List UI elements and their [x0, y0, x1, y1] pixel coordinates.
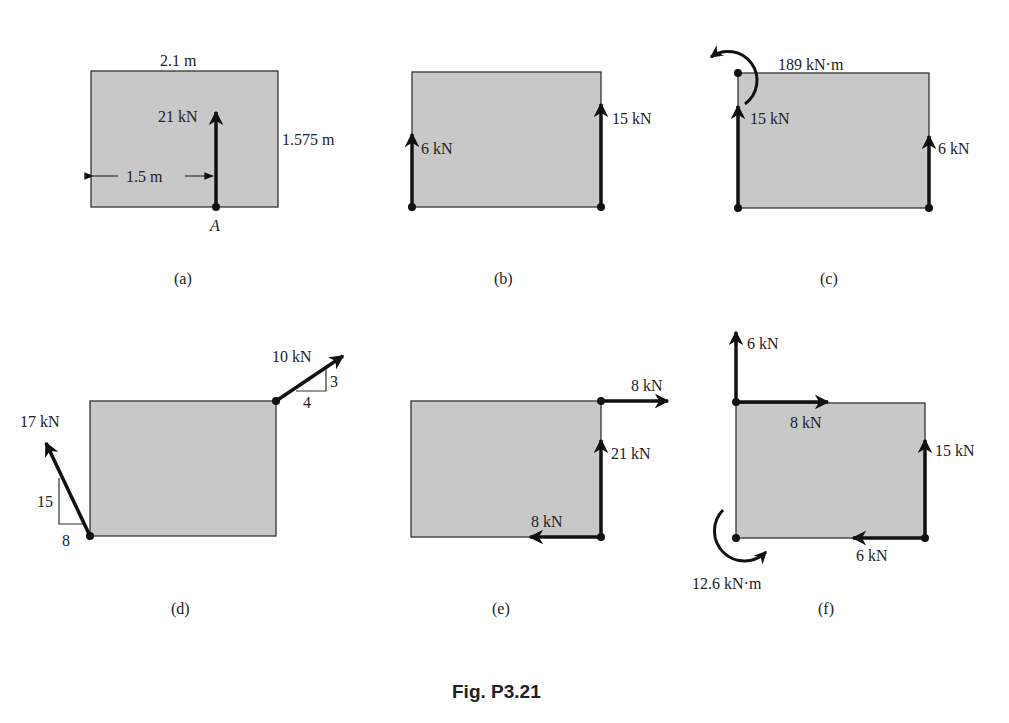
corner-dot: [734, 204, 742, 212]
slope-run-label: 8: [62, 532, 70, 549]
corner-dot: [732, 398, 740, 406]
corner-dot: [921, 534, 929, 542]
corner-dot: [925, 204, 933, 212]
force-arrow-diagonal-icon: [46, 443, 90, 536]
plate: [90, 401, 276, 536]
panel-d-caption: (d): [171, 600, 190, 618]
corner-dot: [408, 203, 416, 211]
force-label-15kn: 15 kN: [750, 110, 790, 127]
panel-f: 6 kN 8 kN 15 kN 6 kN 12.6 kN·m (f): [692, 332, 975, 618]
panel-e-caption: (e): [492, 600, 510, 618]
plate: [736, 403, 925, 538]
force-label-6kn: 6 kN: [421, 140, 453, 157]
plate: [738, 73, 929, 208]
panel-c: 189 kN·m 15 kN 6 kN (c): [711, 51, 970, 288]
force-label-8kn: 8 kN: [790, 414, 822, 431]
width-dimension-label: 2.1 m: [160, 52, 197, 69]
moment-label-12-6: 12.6 kN·m: [692, 575, 762, 592]
height-dimension-label: 1.575 m: [282, 131, 335, 148]
panel-a-caption: (a): [174, 270, 192, 288]
panel-a: 2.1 m 1.575 m 1.5 m 21 kN A (a): [91, 52, 335, 288]
panel-b-caption: (b): [494, 270, 513, 288]
corner-dot: [86, 532, 94, 540]
corner-dot: [732, 534, 740, 542]
slope-rise-label: 15: [37, 493, 53, 510]
force-label-21kn: 21 kN: [158, 108, 198, 125]
panel-d: 10 kN 3 4 17 kN 15 8 (d): [20, 348, 343, 618]
corner-dot: [734, 69, 742, 77]
force-label-6kn-top: 6 kN: [747, 335, 779, 352]
force-label-17kn: 17 kN: [20, 413, 60, 430]
plate: [411, 401, 601, 537]
corner-dot: [597, 533, 605, 541]
force-label-21kn: 21 kN: [611, 445, 651, 462]
offset-dimension-label: 1.5 m: [126, 168, 163, 185]
panel-f-caption: (f): [818, 600, 834, 618]
panel-c-caption: (c): [820, 270, 838, 288]
panel-e: 8 kN 21 kN 8 kN (e): [411, 377, 668, 618]
force-label-6kn: 6 kN: [938, 140, 970, 157]
figure-canvas: 2.1 m 1.575 m 1.5 m 21 kN A (a) 6 kN 15 …: [0, 0, 1009, 723]
force-label-10kn: 10 kN: [272, 348, 312, 365]
figure-caption: Fig. P3.21: [452, 681, 541, 702]
panel-b: 6 kN 15 kN (b): [408, 72, 652, 288]
moment-label-189: 189 kN·m: [778, 56, 844, 73]
corner-dot: [272, 397, 280, 405]
slope-run-label: 4: [303, 394, 311, 411]
plate: [91, 71, 278, 207]
point-a-dot: [212, 203, 220, 211]
corner-dot: [597, 397, 605, 405]
force-label-15kn: 15 kN: [612, 110, 652, 127]
slope-rise-label: 3: [330, 373, 338, 390]
point-a-label: A: [209, 217, 220, 234]
force-label-6kn-bottom: 6 kN: [856, 547, 888, 564]
corner-dot: [597, 203, 605, 211]
force-label-15kn: 15 kN: [935, 442, 975, 459]
force-label-8kn-top: 8 kN: [631, 377, 663, 394]
force-label-8kn-bottom: 8 kN: [531, 513, 563, 530]
